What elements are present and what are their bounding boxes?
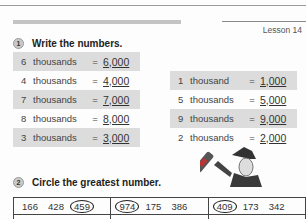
number-option[interactable]: 173	[239, 201, 263, 212]
row-number: 5	[178, 94, 190, 105]
number-option[interactable]: 175	[141, 201, 165, 212]
section-title: Write the numbers.	[32, 38, 122, 49]
circled-number[interactable]: 409	[213, 200, 237, 213]
section-number-icon: 1	[13, 38, 24, 49]
section-2-heading: 2 Circle the greatest number.	[13, 177, 161, 188]
top-rule	[0, 5, 306, 6]
number-row: 8thousands=8,000	[13, 109, 140, 128]
left-column: 6thousands=6,0004thousands=4,0007thousan…	[13, 52, 140, 147]
circled-number[interactable]: 974	[115, 200, 139, 213]
row-word: thousands	[33, 94, 87, 105]
row-number: 4	[21, 75, 33, 86]
equals-sign: =	[244, 113, 260, 124]
number-group-cell: 409173342	[208, 198, 305, 215]
row-word: thousands	[33, 132, 87, 143]
table-row-cut-off	[14, 215, 306, 220]
number-option[interactable]: 428	[44, 201, 68, 212]
answer-value[interactable]: 4,000	[103, 75, 129, 87]
equals-sign: =	[87, 113, 103, 124]
row-word: thousands	[190, 113, 244, 124]
number-option[interactable]: 342	[265, 201, 289, 212]
row-number: 3	[21, 132, 33, 143]
equals-sign: =	[244, 132, 260, 143]
row-word: thousands	[190, 94, 244, 105]
number-row: 1thousand=1,000	[170, 71, 297, 90]
lesson-label: Lesson 14	[263, 25, 302, 35]
answer-value[interactable]: 7,000	[103, 94, 129, 106]
circle-number-table: 166428459974175386409173342	[13, 197, 306, 219]
row-word: thousands	[33, 113, 87, 124]
equals-sign: =	[87, 132, 103, 143]
number-group-cell	[111, 215, 208, 220]
equals-sign: =	[87, 75, 103, 86]
answer-value[interactable]: 2,000	[260, 132, 286, 144]
wizard-illustration-icon	[200, 145, 272, 187]
number-group-cell	[14, 215, 111, 220]
row-number: 8	[21, 113, 33, 124]
row-word: thousands	[33, 75, 87, 86]
number-row: 4thousands=4,000	[13, 71, 140, 90]
right-column: 1thousand=1,0005thousands=5,0009thousand…	[170, 71, 297, 147]
row-number: 6	[21, 56, 33, 67]
header-bar	[13, 20, 181, 24]
row-number: 2	[178, 132, 190, 143]
answer-value[interactable]: 3,000	[103, 132, 129, 144]
number-group-cell: 166428459	[14, 198, 111, 215]
row-number: 1	[178, 75, 190, 86]
number-row: 7thousands=7,000	[13, 90, 140, 109]
answer-value[interactable]: 1,000	[260, 75, 286, 87]
row-word: thousand	[190, 75, 244, 86]
table-row: 166428459974175386409173342	[14, 198, 306, 215]
answer-value[interactable]: 9,000	[260, 113, 286, 125]
row-word: thousands	[33, 56, 87, 67]
number-row: 9thousands=9,000	[170, 109, 297, 128]
equals-sign: =	[244, 94, 260, 105]
section-number-icon: 2	[13, 177, 24, 188]
number-row: 3thousands=3,000	[13, 128, 140, 147]
answer-value[interactable]: 8,000	[103, 113, 129, 125]
section-1-heading: 1 Write the numbers.	[13, 38, 122, 49]
number-row: 6thousands=6,000	[13, 52, 140, 71]
circled-number[interactable]: 459	[70, 200, 94, 213]
answer-value[interactable]: 6,000	[103, 56, 129, 68]
number-option[interactable]: 386	[167, 201, 191, 212]
row-word: thousands	[190, 132, 244, 143]
equals-sign: =	[244, 75, 260, 86]
lesson-rule	[222, 21, 306, 22]
number-group-cell	[208, 215, 305, 220]
equals-sign: =	[87, 94, 103, 105]
answer-value[interactable]: 5,000	[260, 94, 286, 106]
row-number: 7	[21, 94, 33, 105]
number-row: 5thousands=5,000	[170, 90, 297, 109]
equals-sign: =	[87, 56, 103, 67]
number-group-cell: 974175386	[111, 198, 208, 215]
number-option[interactable]: 166	[18, 201, 42, 212]
section-title: Circle the greatest number.	[32, 177, 161, 188]
row-number: 9	[178, 113, 190, 124]
